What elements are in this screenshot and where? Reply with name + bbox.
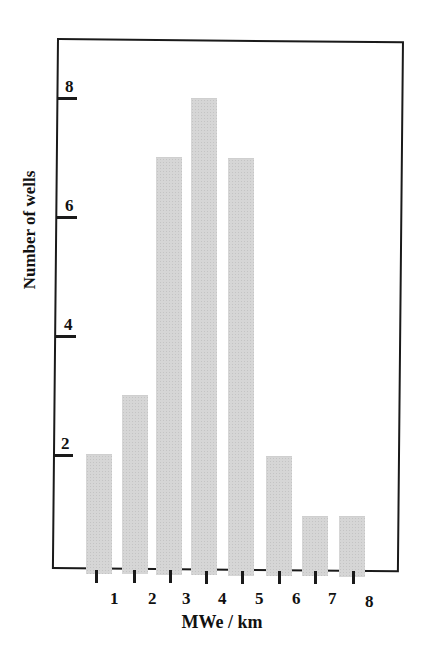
bar-1 [86,454,112,574]
y-tick-8 [57,97,77,100]
bar-5 [228,158,254,576]
y-tick-label-4: 4 [64,315,73,335]
y-tick-6 [57,216,77,219]
x-axis-title: MWe / km [182,612,263,633]
x-tick-7 [314,571,317,584]
x-tick-2 [133,570,136,583]
x-tick-6 [278,571,281,584]
y-tick-label-8: 8 [65,77,74,97]
x-tick-label-4: 4 [218,589,227,609]
bar-3 [156,157,182,575]
bar-4 [191,98,217,575]
y-tick-2 [53,454,73,457]
x-tick-5 [241,571,244,584]
x-tick-label-2: 2 [148,589,157,609]
bar-2 [122,395,148,575]
x-tick-label-7: 7 [328,589,337,609]
x-tick-label-1: 1 [110,589,119,609]
x-tick-label-3: 3 [182,589,191,609]
y-axis-title: Number of wells [20,171,40,290]
x-tick-label-6: 6 [292,589,301,609]
x-tick-label-5: 5 [255,589,264,609]
x-tick-8 [352,571,355,584]
y-tick-label-6: 6 [65,196,74,216]
y-tick-4 [56,335,76,338]
x-tick-4 [205,571,208,584]
bar-8 [339,516,365,577]
bar-7 [302,516,328,577]
y-tick-label-2: 2 [61,434,70,454]
x-tick-1 [95,570,98,583]
bar-6 [266,456,292,576]
x-tick-3 [169,570,172,583]
x-tick-label-8: 8 [365,592,374,612]
